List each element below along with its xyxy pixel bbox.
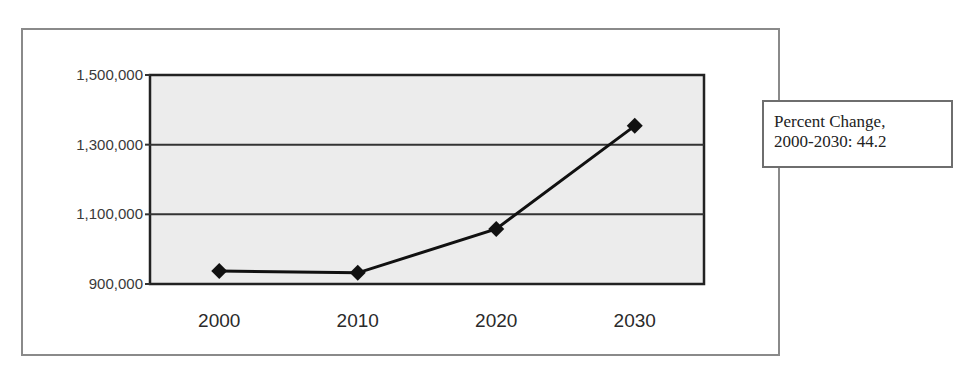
y-axis: 900,0001,100,0001,300,0001,500,000 <box>76 66 150 292</box>
y-tick-label: 1,100,000 <box>76 205 143 222</box>
y-tick-label: 1,300,000 <box>76 136 143 153</box>
x-tick-label: 2010 <box>337 310 379 331</box>
y-tick-label: 1,500,000 <box>76 66 143 83</box>
x-axis: 2000201020202030 <box>198 310 656 331</box>
percent-change-annotation: Percent Change, 2000-2030: 44.2 <box>762 100 953 168</box>
x-tick-label: 2020 <box>475 310 517 331</box>
plot-area <box>150 75 704 284</box>
x-tick-label: 2030 <box>614 310 656 331</box>
annotation-line-2: 2000-2030: 44.2 <box>774 132 951 152</box>
x-tick-label: 2000 <box>198 310 240 331</box>
y-tick-label: 900,000 <box>89 275 143 292</box>
line-chart: 900,0001,100,0001,300,0001,500,000 20002… <box>0 0 970 369</box>
annotation-line-1: Percent Change, <box>774 112 951 132</box>
